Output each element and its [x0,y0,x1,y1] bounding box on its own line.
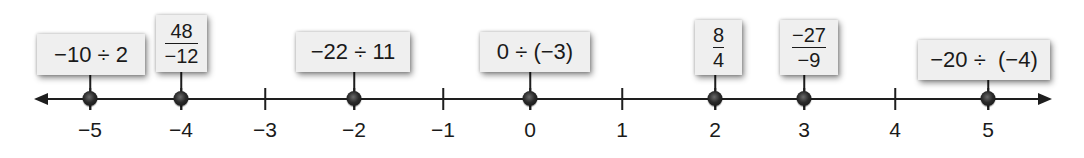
fraction-bar [713,47,724,49]
tick-label: −1 [431,118,455,142]
expression-text: 0 ÷ (−3) [497,39,573,65]
expression-label-box: −27−9 [780,20,838,75]
tick-label: 2 [709,118,721,142]
expression-text: −22 ÷ 11 [311,39,395,65]
number-line-diagram: −5−4−3−2−1012345 −10 ÷ 248−12−22 ÷ 110 ÷… [0,0,1084,158]
fraction: 48−12 [165,20,199,68]
tick-label: 4 [889,118,901,142]
fraction-numerator: −27 [792,24,826,46]
fraction-bar [792,47,826,49]
fraction-denominator: 4 [713,49,724,71]
expression-label-box: 0 ÷ (−3) [480,32,590,72]
expression-label-box: 84 [695,20,742,75]
fraction-bar [165,43,199,45]
expression-text: −20 ÷ (−4) [930,47,1037,73]
point-dot [83,91,98,106]
tick-label: 5 [982,118,994,142]
tick-label: −5 [78,118,102,142]
tick-mark [442,88,444,110]
expression-label-box: −10 ÷ 2 [37,34,145,75]
fraction-denominator: −12 [165,45,199,67]
tick-mark [894,88,896,110]
point-dot [981,91,996,106]
tick-label: 3 [798,118,810,142]
point-dot [174,91,189,106]
fraction: −27−9 [792,24,826,72]
fraction: 84 [713,24,724,72]
expression-label-box: −20 ÷ (−4) [918,40,1050,80]
expression-text: −10 ÷ 2 [54,42,128,68]
point-dot [797,91,812,106]
point-dot [708,91,723,106]
tick-mark [621,88,623,110]
fraction-numerator: 8 [713,24,724,46]
fraction-denominator: −9 [798,49,821,71]
expression-label-box: 48−12 [156,15,207,72]
tick-label: −4 [169,118,193,142]
tick-mark [264,88,266,110]
arrow-right-icon [1038,93,1052,105]
tick-label: −2 [342,118,366,142]
tick-label: −3 [253,118,277,142]
point-dot [523,91,538,106]
arrow-left-icon [34,93,48,105]
tick-label: 1 [616,118,628,142]
fraction-numerator: 48 [170,20,192,42]
tick-label: 0 [524,118,536,142]
expression-label-box: −22 ÷ 11 [296,32,410,72]
point-dot [347,91,362,106]
